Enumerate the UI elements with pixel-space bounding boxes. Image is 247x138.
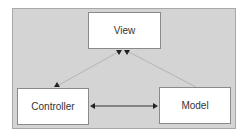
controller-view-link — [57, 51, 120, 86]
controller-node: Controller — [17, 88, 89, 125]
arrowhead-left-icon — [90, 103, 95, 109]
model-node: Model — [159, 87, 231, 124]
view-node: View — [88, 12, 161, 49]
model-label: Model — [181, 100, 208, 111]
view-label: View — [114, 25, 136, 36]
model-view-link — [127, 51, 196, 87]
controller-label: Controller — [31, 101, 74, 112]
arrowhead-right-icon — [153, 103, 158, 109]
